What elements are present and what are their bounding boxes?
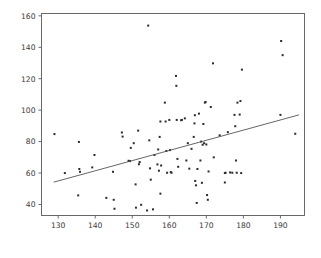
data-point bbox=[79, 171, 81, 173]
data-point bbox=[199, 159, 201, 161]
data-point bbox=[279, 114, 281, 116]
x-tick-label-140: 140 bbox=[88, 221, 103, 230]
data-point bbox=[234, 125, 236, 127]
y-tick-label-60: 60 bbox=[26, 169, 36, 178]
data-point bbox=[175, 75, 177, 77]
data-point bbox=[194, 114, 196, 116]
data-point bbox=[280, 40, 282, 42]
data-point bbox=[152, 208, 154, 210]
data-point bbox=[159, 136, 161, 138]
data-point bbox=[78, 141, 80, 143]
data-point bbox=[198, 113, 200, 115]
scatter-plot-figure: 130140150160170180190 406080100120140160 bbox=[0, 0, 321, 258]
data-point bbox=[187, 142, 189, 144]
data-point bbox=[137, 130, 139, 132]
data-point bbox=[160, 165, 162, 167]
data-point bbox=[175, 85, 177, 87]
x-axis-tick-labels: 130140150160170180190 bbox=[51, 221, 288, 230]
data-point bbox=[64, 172, 66, 174]
data-point bbox=[196, 168, 198, 170]
data-point bbox=[146, 209, 148, 211]
data-point bbox=[53, 133, 55, 135]
y-tick-label-160: 160 bbox=[21, 12, 36, 21]
axes-frame bbox=[42, 14, 305, 216]
data-point bbox=[239, 100, 241, 102]
data-point bbox=[77, 194, 79, 196]
data-point bbox=[184, 117, 186, 119]
data-point bbox=[177, 166, 179, 168]
data-point bbox=[130, 147, 132, 149]
data-point bbox=[147, 25, 149, 27]
x-tick-label-190: 190 bbox=[273, 221, 288, 230]
data-point bbox=[139, 161, 141, 163]
x-tick-label-170: 170 bbox=[199, 221, 214, 230]
data-point bbox=[236, 102, 238, 104]
data-point bbox=[191, 148, 193, 150]
data-point bbox=[181, 119, 183, 121]
data-point bbox=[282, 54, 284, 56]
data-point bbox=[156, 163, 158, 165]
data-point bbox=[195, 184, 197, 186]
y-tick-label-40: 40 bbox=[26, 200, 36, 209]
data-point bbox=[203, 142, 205, 144]
data-point bbox=[135, 207, 137, 209]
data-point bbox=[157, 148, 159, 150]
data-point bbox=[194, 180, 196, 182]
data-point bbox=[231, 172, 233, 174]
data-point bbox=[202, 123, 204, 125]
trend-line bbox=[54, 115, 299, 182]
data-point bbox=[171, 172, 173, 174]
data-point bbox=[193, 122, 195, 124]
data-point bbox=[93, 154, 95, 156]
data-point bbox=[210, 106, 212, 108]
data-point bbox=[159, 193, 161, 195]
data-point bbox=[158, 170, 160, 172]
y-tick-label-120: 120 bbox=[21, 75, 36, 84]
data-point bbox=[196, 202, 198, 204]
data-point bbox=[112, 171, 114, 173]
data-point bbox=[121, 132, 123, 134]
data-point bbox=[148, 139, 150, 141]
data-point bbox=[294, 133, 296, 135]
data-point bbox=[78, 168, 80, 170]
data-point bbox=[233, 114, 235, 116]
data-point bbox=[235, 159, 237, 161]
y-tick-label-80: 80 bbox=[26, 137, 36, 146]
y-tick-label-100: 100 bbox=[21, 106, 36, 115]
data-point bbox=[168, 119, 170, 121]
data-point bbox=[193, 136, 195, 138]
data-point bbox=[135, 183, 137, 185]
data-points-layer bbox=[53, 25, 296, 212]
data-point bbox=[188, 168, 190, 170]
y-tick-label-140: 140 bbox=[21, 43, 36, 52]
data-point bbox=[165, 121, 167, 123]
plot-canvas: 130140150160170180190 406080100120140160 bbox=[0, 0, 321, 258]
data-point bbox=[138, 163, 140, 165]
data-point bbox=[166, 172, 168, 174]
data-point bbox=[206, 194, 208, 196]
data-point bbox=[201, 182, 203, 184]
data-point bbox=[227, 131, 229, 133]
data-point bbox=[224, 181, 226, 183]
data-point bbox=[236, 172, 238, 174]
data-point bbox=[207, 199, 209, 201]
data-point bbox=[176, 158, 178, 160]
data-point bbox=[229, 171, 231, 173]
data-point bbox=[113, 208, 115, 210]
data-point bbox=[105, 197, 107, 199]
data-point bbox=[213, 156, 215, 158]
data-point bbox=[150, 179, 152, 181]
data-point bbox=[185, 159, 187, 161]
data-point bbox=[239, 114, 241, 116]
y-axis-tick-labels: 406080100120140160 bbox=[21, 12, 36, 210]
data-point bbox=[225, 172, 227, 174]
data-point bbox=[149, 167, 151, 169]
data-point bbox=[205, 101, 207, 103]
data-point bbox=[205, 143, 207, 145]
data-point bbox=[133, 142, 135, 144]
data-point bbox=[164, 102, 166, 104]
data-point bbox=[159, 121, 161, 123]
x-tick-label-130: 130 bbox=[51, 221, 66, 230]
data-point bbox=[241, 69, 243, 71]
x-tick-label-150: 150 bbox=[125, 221, 140, 230]
